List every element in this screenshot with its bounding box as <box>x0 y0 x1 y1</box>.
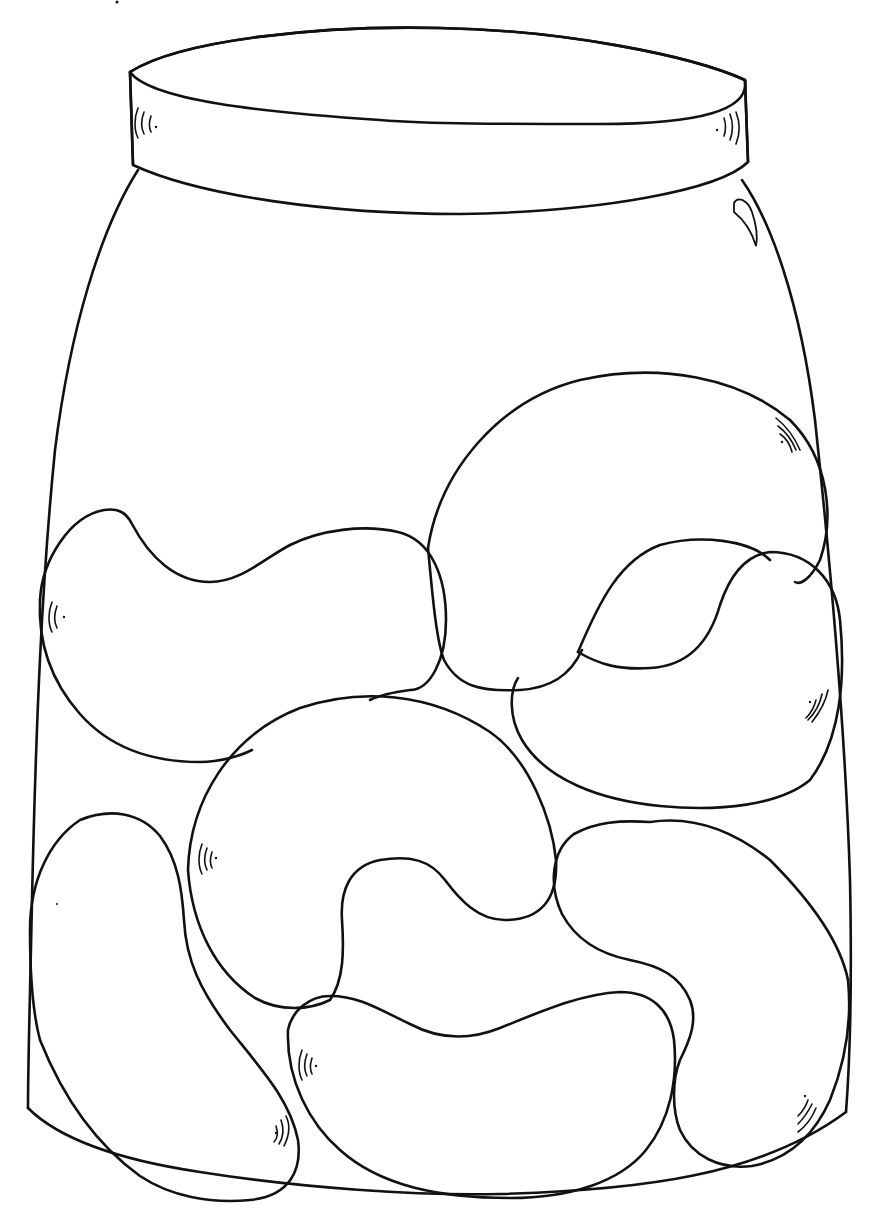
bean-center-curled <box>188 696 556 1008</box>
bean-bottom-center <box>288 992 675 1198</box>
bean-right-middle <box>512 540 842 808</box>
bean-left-middle <box>40 510 446 762</box>
jar-of-beans-drawing <box>0 0 874 1221</box>
jar-highlight-icon <box>734 200 757 246</box>
beans <box>30 373 849 1201</box>
bean-top-right-large <box>428 373 827 691</box>
bean-bottom-left <box>30 813 299 1201</box>
coloring-page: Jar of beans coloring page <box>0 0 874 1221</box>
stray-mark <box>116 1 119 4</box>
jar-lid <box>130 28 748 214</box>
jar-body <box>28 170 851 1194</box>
